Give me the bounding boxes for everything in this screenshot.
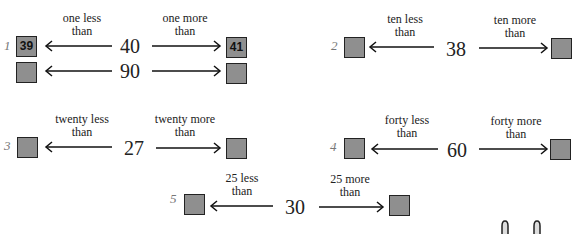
left-label: 25 less than	[217, 172, 267, 198]
center-number: 30	[285, 196, 305, 219]
center-number: 27	[124, 137, 144, 160]
answer-box-left[interactable]	[344, 37, 365, 58]
left-arrow-icon	[209, 206, 275, 216]
problem-number: 5	[170, 191, 177, 207]
left-label: forty less than	[373, 114, 441, 140]
answer-box-right[interactable]	[226, 138, 247, 159]
right-arrow-icon	[152, 46, 222, 56]
answer-box-right[interactable]	[226, 63, 247, 84]
left-arrow-icon	[368, 47, 436, 57]
left-arrow-icon	[370, 149, 440, 159]
right-label: 25 more than	[320, 173, 380, 199]
answer-box-left[interactable]: 39	[16, 36, 37, 57]
right-label: twenty more than	[145, 113, 225, 139]
right-arrow-icon	[479, 149, 549, 159]
answer-box-right[interactable]	[389, 195, 410, 216]
center-number: 90	[120, 60, 140, 83]
right-arrow-icon	[152, 71, 222, 81]
problem-number: 4	[330, 139, 337, 155]
answer-box-left[interactable]	[16, 62, 37, 83]
center-number: 60	[447, 139, 467, 162]
right-arrow-icon	[156, 148, 222, 158]
problem-number: 1	[4, 38, 11, 54]
answer-box-right[interactable]: 41	[226, 37, 247, 58]
right-arrow-icon	[479, 48, 549, 58]
left-arrow-icon	[44, 46, 114, 56]
answer-box-left[interactable]	[184, 194, 205, 215]
problem-number: 2	[331, 38, 338, 54]
answer-box-right[interactable]	[551, 38, 572, 59]
answer-box-right[interactable]	[550, 139, 571, 160]
center-number: 40	[120, 35, 140, 58]
center-number: 38	[446, 38, 466, 61]
right-label: one more than	[150, 12, 220, 38]
left-label: one less than	[52, 12, 112, 38]
left-label: twenty less than	[42, 113, 122, 139]
right-arrow-icon	[319, 207, 385, 217]
left-arrow-icon	[44, 147, 114, 157]
decorative-shape-icon	[500, 220, 550, 234]
left-label: ten less than	[375, 13, 435, 39]
answer-box-left[interactable]	[17, 137, 38, 158]
left-arrow-icon	[44, 71, 114, 81]
right-label: ten more than	[480, 14, 550, 40]
right-label: forty more than	[480, 115, 552, 141]
answer-box-left[interactable]	[344, 138, 365, 159]
problem-number: 3	[4, 138, 11, 154]
